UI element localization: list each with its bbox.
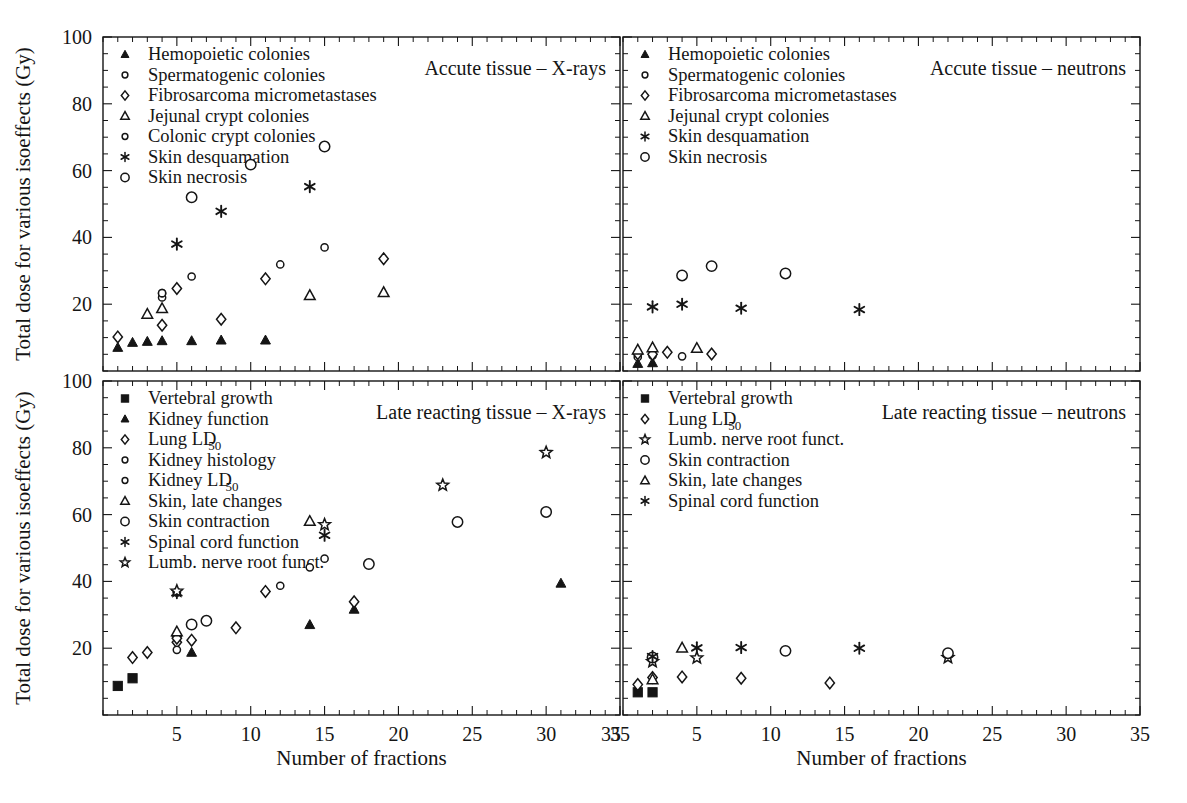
data-marker-diamond xyxy=(121,435,128,444)
data-marker-asterisk xyxy=(692,642,702,653)
legend-item: Spermatogenic colonies xyxy=(642,65,845,85)
marker-diamond xyxy=(231,622,240,634)
data-marker-circle xyxy=(121,517,129,525)
marker-filled-triangle xyxy=(216,335,226,344)
x-tick-label: 30 xyxy=(536,723,556,745)
x-tick-label: 30 xyxy=(1056,723,1076,745)
legend-item: Jejunal crypt colonies xyxy=(641,106,830,126)
asterisk-core xyxy=(175,243,178,246)
legend-label: Spinal cord function xyxy=(668,491,819,511)
data-marker-filled-triangle xyxy=(142,336,152,345)
series xyxy=(648,299,864,316)
data-marker-circle xyxy=(452,517,462,527)
marker-star xyxy=(540,446,552,457)
marker-filled-triangle xyxy=(121,50,129,57)
marker-diamond xyxy=(825,677,834,689)
asterisk-core xyxy=(858,647,861,650)
legend-label: Jejunal crypt colonies xyxy=(148,106,309,126)
data-marker-diamond xyxy=(663,346,672,358)
asterisk-core xyxy=(858,308,861,311)
legend-item: Spinal cord function xyxy=(641,491,819,511)
marker-triangle xyxy=(157,303,168,313)
legend: Vertebral growthKidney functionLung LD50… xyxy=(120,388,324,572)
x-tick-label: 5 xyxy=(172,723,182,745)
data-marker-asterisk xyxy=(641,497,649,506)
marker-circle xyxy=(186,619,196,629)
marker-small-circle xyxy=(306,564,313,571)
marker-asterisk xyxy=(216,206,226,217)
y-tick-label: 100 xyxy=(62,370,92,392)
marker-diamond xyxy=(707,348,716,360)
y-axis-title: Total dose for various isoeffects (Gy) xyxy=(11,391,35,705)
figure-canvas: 20406080100Accute tissue – X-raysHemopoi… xyxy=(0,0,1187,803)
legend-label: Skin necrosis xyxy=(668,147,767,167)
data-marker-circle xyxy=(943,648,953,658)
legend-label: Vertebral growth xyxy=(148,388,273,408)
marker-asterisk xyxy=(854,643,864,654)
marker-circle xyxy=(943,648,953,658)
data-marker-diamond xyxy=(187,634,196,646)
data-marker-circle xyxy=(201,616,211,626)
legend-label: Colonic crypt colonies xyxy=(148,126,316,146)
marker-asterisk xyxy=(854,304,864,315)
panel-bottom-left: 204060801005101520253035Late reacting ti… xyxy=(62,370,630,745)
marker-diamond xyxy=(737,672,746,684)
data-marker-diamond xyxy=(261,273,270,285)
y-tick-label: 80 xyxy=(72,93,92,115)
marker-asterisk xyxy=(172,238,182,249)
x-tick-label: 20 xyxy=(908,723,928,745)
marker-circle xyxy=(706,261,716,271)
marker-asterisk xyxy=(677,299,687,310)
marker-circle xyxy=(319,141,329,151)
data-marker-filled-square xyxy=(113,681,122,690)
legend-item: Spinal cord function xyxy=(121,532,299,552)
data-marker-triangle xyxy=(304,516,315,526)
data-marker-asterisk xyxy=(854,304,864,315)
data-marker-circle xyxy=(121,173,129,181)
legend-label: Hemopoietic colonies xyxy=(148,44,310,64)
legend-item: Vertebral growth xyxy=(641,388,793,408)
x-tick-label: 10 xyxy=(761,723,781,745)
marker-small-circle xyxy=(321,244,328,251)
x-axis-title: Number of fractions xyxy=(276,746,446,770)
marker-circle xyxy=(780,646,790,656)
marker-triangle xyxy=(172,626,183,636)
marker-small-circle xyxy=(321,555,328,562)
legend-label: Lumb. nerve root funct. xyxy=(148,552,324,572)
marker-asterisk xyxy=(305,181,315,192)
asterisk-core xyxy=(651,305,654,308)
marker-filled-triangle xyxy=(128,337,138,346)
asterisk-core xyxy=(124,156,126,158)
marker-asterisk xyxy=(736,303,746,314)
y-tick-label: 60 xyxy=(72,504,92,526)
data-marker-diamond xyxy=(707,348,716,360)
data-marker-asterisk xyxy=(736,303,746,314)
marker-triangle xyxy=(304,516,315,526)
data-points xyxy=(632,261,864,367)
marker-star xyxy=(640,435,649,444)
marker-triangle xyxy=(677,642,688,652)
data-marker-circle xyxy=(246,159,256,169)
legend-item: Skin contraction xyxy=(121,511,270,531)
data-marker-circle xyxy=(641,456,649,464)
data-marker-filled-triangle xyxy=(187,336,197,345)
legend-item: Skin, late changes xyxy=(641,470,802,490)
data-marker-filled-triangle xyxy=(157,336,167,345)
legend-label: Kidney histology xyxy=(148,450,277,470)
legend-label: Skin, late changes xyxy=(148,491,282,511)
marker-diamond xyxy=(379,253,388,265)
marker-filled-triangle xyxy=(305,620,315,629)
legend-item: Skin, late changes xyxy=(121,491,282,511)
asterisk-core xyxy=(124,541,126,543)
data-marker-triangle xyxy=(378,287,389,297)
data-marker-circle xyxy=(706,261,716,271)
data-marker-circle xyxy=(780,268,790,278)
marker-diamond xyxy=(349,596,358,608)
y-tick-label: 20 xyxy=(72,637,92,659)
data-marker-asterisk xyxy=(121,538,129,547)
data-marker-circle xyxy=(186,192,196,202)
marker-small-circle xyxy=(678,353,685,360)
legend-item: Jejunal crypt colonies xyxy=(121,106,310,126)
data-marker-triangle xyxy=(121,497,130,505)
y-tick-label: 20 xyxy=(72,293,92,315)
